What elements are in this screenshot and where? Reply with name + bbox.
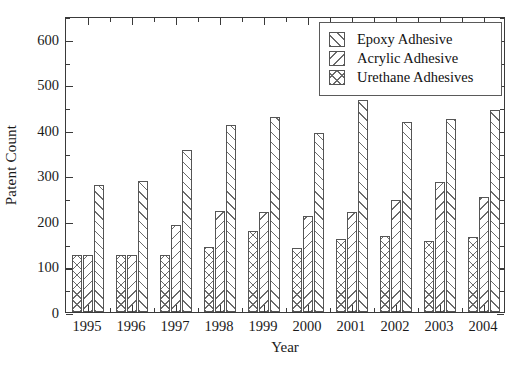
legend-swatch-acrylic-icon xyxy=(329,51,345,66)
x-axis-tick-major xyxy=(264,305,265,312)
chart-legend: Epoxy Adhesive Acrylic Adhesive Urethane… xyxy=(319,22,502,96)
y-axis-tick-label: 500 xyxy=(15,77,59,94)
bar xyxy=(248,231,258,312)
y-axis-tick-label: 100 xyxy=(15,259,59,276)
x-axis-tick-major-top xyxy=(88,18,89,25)
legend-swatch-urethane-icon xyxy=(329,70,345,85)
legend-label-urethane: Urethane Adhesives xyxy=(357,69,473,86)
y-axis-tick-minor-right xyxy=(500,18,504,19)
legend-item-urethane[interactable]: Urethane Adhesives xyxy=(329,68,492,87)
y-axis-tick-minor xyxy=(66,64,70,65)
x-axis-tick-minor xyxy=(242,308,243,312)
y-axis-tick-label: 0 xyxy=(15,305,59,322)
y-axis-tick-major xyxy=(66,314,73,315)
x-axis-tick-minor xyxy=(110,308,111,312)
bar xyxy=(446,119,456,312)
bar xyxy=(116,255,126,312)
x-axis-tick-major xyxy=(352,305,353,312)
x-axis-tick-minor xyxy=(462,308,463,312)
legend-item-acrylic[interactable]: Acrylic Adhesive xyxy=(329,49,492,68)
bar xyxy=(226,125,236,312)
y-axis-tick-label: 300 xyxy=(15,168,59,185)
y-axis-tick-label: 200 xyxy=(15,213,59,230)
bar xyxy=(402,122,412,312)
y-axis-tick-minor-right xyxy=(500,109,504,110)
x-axis-tick-major xyxy=(88,305,89,312)
x-axis-tick-minor-top xyxy=(198,18,199,22)
x-axis-tick-minor xyxy=(418,308,419,312)
y-axis-tick-major xyxy=(66,132,73,133)
x-axis-tick-major xyxy=(308,305,309,312)
x-axis-tick-minor xyxy=(154,308,155,312)
bar xyxy=(424,241,434,312)
legend-item-epoxy[interactable]: Epoxy Adhesive xyxy=(329,30,492,49)
x-axis-tick-major-top xyxy=(220,18,221,25)
bar xyxy=(391,200,401,312)
x-axis-tick-major xyxy=(132,305,133,312)
bar xyxy=(336,239,346,312)
bar xyxy=(468,237,478,312)
y-axis-tick-minor-right xyxy=(500,291,504,292)
y-axis-tick-major xyxy=(66,177,73,178)
bar xyxy=(72,255,82,312)
bar xyxy=(259,212,269,312)
x-axis-tick-minor-top xyxy=(242,18,243,22)
x-axis-tick-major xyxy=(440,305,441,312)
bar xyxy=(292,248,302,312)
x-axis-tick-major xyxy=(484,305,485,312)
y-axis-tick-minor xyxy=(66,155,70,156)
x-axis-tick-major xyxy=(176,305,177,312)
bar xyxy=(270,117,280,312)
y-axis-tick-minor-right xyxy=(500,155,504,156)
x-axis-tick-minor xyxy=(198,308,199,312)
y-axis-tick-major xyxy=(66,223,73,224)
y-axis-tick-minor xyxy=(66,18,70,19)
bar xyxy=(204,247,214,312)
bar xyxy=(83,255,93,312)
bar xyxy=(314,133,324,312)
bar xyxy=(182,150,192,312)
x-axis-tick-minor-top xyxy=(154,18,155,22)
x-axis-tick-major-top xyxy=(264,18,265,25)
x-axis-tick-major-top xyxy=(308,18,309,25)
x-axis-tick-minor-top xyxy=(286,18,287,22)
x-axis-tick-major-top xyxy=(132,18,133,25)
bar xyxy=(380,236,390,312)
x-axis-tick-minor xyxy=(374,308,375,312)
x-axis-tick-minor xyxy=(330,308,331,312)
y-axis-tick-major xyxy=(66,86,73,87)
legend-label-acrylic: Acrylic Adhesive xyxy=(357,50,458,67)
bar xyxy=(347,212,357,312)
y-axis-tick-minor xyxy=(66,109,70,110)
bar xyxy=(303,216,313,312)
legend-swatch-epoxy-icon xyxy=(329,32,345,47)
x-axis-label: Year xyxy=(65,339,505,356)
bar xyxy=(127,255,137,312)
patent-count-bar-chart: Patent Count Year Epoxy Adhesive Acrylic… xyxy=(0,0,521,365)
y-axis-tick-major-right xyxy=(497,314,504,315)
y-axis-tick-minor xyxy=(66,200,70,201)
bar xyxy=(171,225,181,312)
x-axis-tick-label: 2004 xyxy=(453,318,513,335)
y-axis-tick-label: 400 xyxy=(15,122,59,139)
y-axis-tick-minor-right xyxy=(500,200,504,201)
bar xyxy=(215,211,225,312)
bar xyxy=(435,182,445,312)
x-axis-tick-major-top xyxy=(176,18,177,25)
y-axis-tick-minor-right xyxy=(500,246,504,247)
y-axis-tick-minor xyxy=(66,246,70,247)
x-axis-tick-major xyxy=(220,305,221,312)
x-axis-tick-minor-top xyxy=(110,18,111,22)
bar xyxy=(160,255,170,312)
y-axis-tick-label: 600 xyxy=(15,31,59,48)
bar xyxy=(138,181,148,312)
y-axis-tick-major xyxy=(66,41,73,42)
y-axis-tick-minor xyxy=(66,291,70,292)
bar xyxy=(479,197,489,312)
x-axis-tick-major xyxy=(396,305,397,312)
bar xyxy=(490,110,500,312)
bar xyxy=(94,185,104,313)
legend-label-epoxy: Epoxy Adhesive xyxy=(357,31,452,48)
x-axis-tick-minor xyxy=(286,308,287,312)
bar xyxy=(358,100,368,312)
